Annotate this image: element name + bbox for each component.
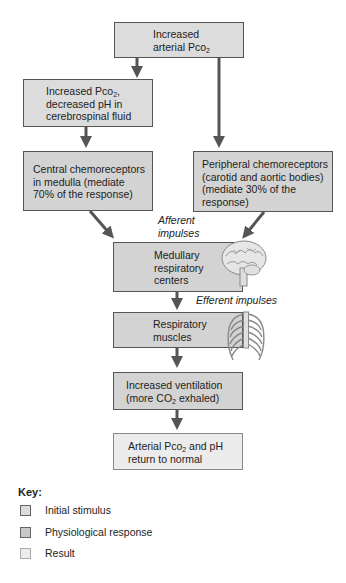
box-central-chemoreceptors: Central chemoreceptors in medulla (media… (23, 151, 153, 211)
box-text: (mediate 30% of the (202, 183, 332, 196)
box-text: cerebrospinal fluid (46, 110, 152, 123)
key-title: Key: (18, 486, 42, 498)
box-return-to-normal: Arterial Pco2 and pH return to normal (113, 433, 243, 470)
box-text: Central chemoreceptors (33, 163, 152, 176)
key-label: Physiological response (45, 526, 152, 538)
box-peripheral-chemoreceptors: Peripheral chemoreceptors (carotid and a… (193, 151, 333, 212)
efferent-impulses-label: Efferent impulses (196, 294, 277, 307)
swatch-physiological-response (20, 527, 31, 538)
box-text: return to normal (128, 453, 242, 466)
box-text: (more CO2 exhaled) (126, 392, 242, 405)
box-increased-ventilation: Increased ventilation (more CO2 exhaled) (113, 372, 243, 410)
box-text: Increased (153, 28, 243, 41)
ribcage-icon (224, 308, 268, 366)
box-increased-pco2-csf: Increased Pco2, decreased pH in cerebros… (23, 79, 153, 127)
key-item-initial-stimulus: Initial stimulus (20, 504, 111, 516)
brain-icon (219, 238, 269, 290)
box-text: in medulla (mediate (33, 176, 152, 189)
box-text: arterial Pco2 (153, 41, 243, 54)
swatch-result (20, 548, 31, 559)
swatch-initial-stimulus (20, 505, 31, 516)
box-text: Increased ventilation (126, 379, 242, 392)
box-increased-arterial-pco2: Increased arterial Pco2 (114, 22, 244, 58)
key-label: Initial stimulus (45, 504, 111, 516)
box-text: response) (202, 196, 332, 209)
box-text: 70% of the response) (33, 188, 152, 201)
afferent-impulses-label: Afferent impulses (158, 214, 199, 239)
key-label: Result (45, 547, 75, 559)
box-text: decreased pH in (46, 98, 152, 111)
key-item-physiological-response: Physiological response (20, 526, 152, 538)
box-text: Increased Pco2, (46, 85, 152, 98)
key-item-result: Result (20, 547, 75, 559)
box-text: Arterial Pco2 and pH (128, 440, 242, 453)
box-text: Peripheral chemoreceptors (202, 158, 332, 171)
box-text: (carotid and aortic bodies) (202, 171, 332, 184)
